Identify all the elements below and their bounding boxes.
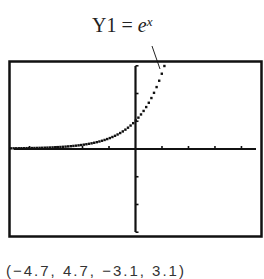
- leader-line: [152, 46, 160, 69]
- window-settings-text: (−4.7, 4.7, −3.1, 3.1): [6, 262, 186, 279]
- axes: [14, 66, 256, 232]
- exponential-curve: [10, 65, 166, 150]
